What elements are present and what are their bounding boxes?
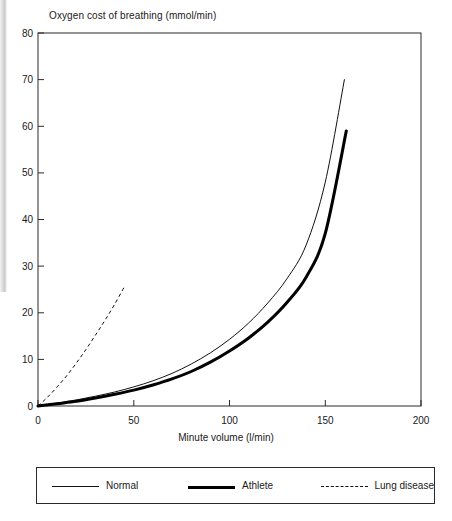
y-tick-label: 30 [22,261,34,272]
legend-label: Lung disease [375,480,435,491]
y-tick-label: 80 [22,28,34,39]
thin-solid-line-icon [52,482,99,490]
y-tick-label: 20 [22,307,34,318]
y-tick-label: 60 [22,121,34,132]
legend-label: Athlete [242,480,273,491]
x-tick-label: 0 [35,415,41,426]
x-tick-label: 200 [413,415,430,426]
legend-label: Normal [106,480,138,491]
dashed-line-icon [321,482,368,490]
x-tick-label: 150 [317,415,334,426]
y-tick-label: 70 [22,74,34,85]
x-axis-tick-labels: 0 50 100 150 200 [35,415,430,426]
y-tick-label: 0 [27,401,33,412]
x-tick-label: 50 [128,415,140,426]
legend-item-athlete: Athlete [188,480,320,491]
legend: Normal Athlete Lung disease [36,467,435,504]
x-axis-title: Minute volume (l/min) [0,432,452,443]
thick-solid-line-icon [188,482,235,490]
legend-item-normal: Normal [52,480,188,491]
y-tick-label: 40 [22,214,34,225]
figure-container: Oxygen cost of breathing (mmol/min) 80 [0,0,452,521]
plot-area: 80 70 60 50 40 30 20 10 0 0 50 100 150 2… [0,0,452,430]
y-tick-label: 50 [22,167,34,178]
legend-item-lung-disease: Lung disease [321,480,435,491]
y-tick-label: 10 [22,354,34,365]
y-axis-tick-labels: 80 70 60 50 40 30 20 10 0 [22,28,34,412]
x-tick-label: 100 [221,415,238,426]
